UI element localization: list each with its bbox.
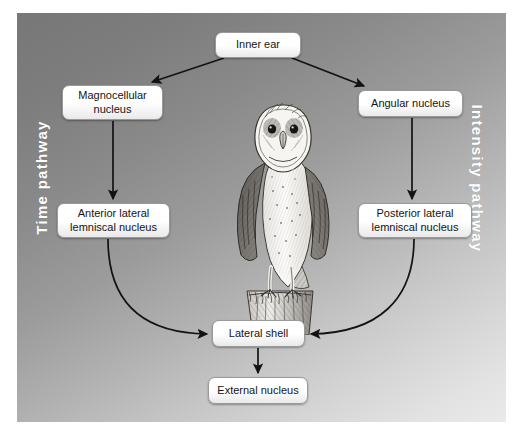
time-pathway-label: Time pathway	[33, 120, 50, 235]
node-angular-nucleus[interactable]: Angular nucleus	[358, 90, 463, 117]
barn-owl-illustration	[225, 95, 341, 335]
node-angular-nucleus-label: Angular nucleus	[371, 97, 450, 111]
node-anterior-lateral-lemniscal-nucleus-label: Anterior lateral lemniscal nucleus	[62, 207, 165, 234]
node-posterior-lateral-lemniscal-nucleus[interactable]: Posterior lateral lemniscal nucleus	[358, 203, 472, 238]
node-magnocellular-nucleus-label: Magnocellular nucleus	[67, 89, 158, 116]
node-lateral-shell[interactable]: Lateral shell	[212, 320, 305, 347]
owl-head	[255, 103, 311, 172]
node-lateral-shell-label: Lateral shell	[229, 327, 288, 341]
node-magnocellular-nucleus[interactable]: Magnocellular nucleus	[62, 85, 163, 120]
node-inner-ear-label: Inner ear	[236, 38, 280, 52]
figure-canvas: Time pathway Intensity pathway Inner ear…	[0, 0, 524, 436]
node-posterior-lateral-lemniscal-nucleus-label: Posterior lateral lemniscal nucleus	[363, 207, 467, 234]
node-external-nucleus-label: External nucleus	[217, 384, 298, 398]
node-external-nucleus[interactable]: External nucleus	[208, 377, 308, 404]
node-anterior-lateral-lemniscal-nucleus[interactable]: Anterior lateral lemniscal nucleus	[57, 203, 170, 238]
node-inner-ear[interactable]: Inner ear	[215, 32, 301, 58]
intensity-pathway-label: Intensity pathway	[469, 105, 486, 253]
